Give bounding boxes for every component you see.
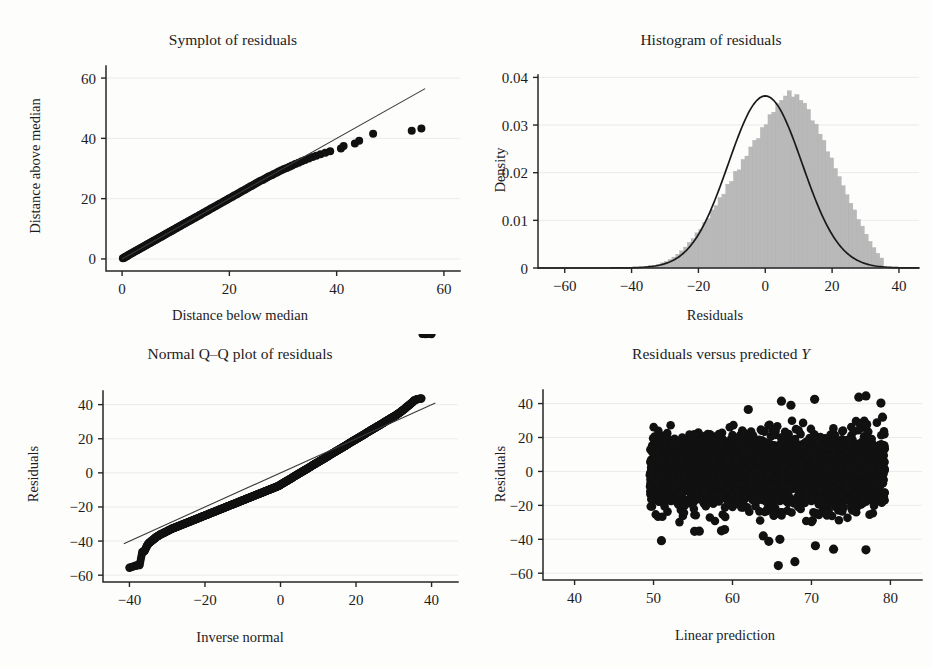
rvf-x-axis-title: Linear prediction: [675, 627, 776, 643]
svg-text:0: 0: [762, 278, 770, 294]
symplot-points: [119, 124, 425, 262]
qq-y-axis-title: Residuals: [25, 445, 41, 502]
panel-residuals-vs-fitted: 4050607080−60−40−2002040 Residuals versu…: [467, 334, 933, 668]
svg-text:−20: −20: [70, 499, 93, 515]
qq-x-axis-title: Inverse normal: [196, 629, 283, 645]
svg-text:−60: −60: [553, 278, 576, 294]
histogram-y-axis-title: Density: [492, 147, 508, 193]
residuals-vs-fitted-chart: 4050607080−60−40−2002040 Residuals versu…: [467, 334, 933, 668]
histogram-x-axis-title: Residuals: [687, 307, 744, 323]
svg-text:−20: −20: [510, 498, 533, 514]
svg-text:0.03: 0.03: [502, 118, 528, 134]
svg-text:20: 20: [518, 430, 533, 446]
svg-text:40: 40: [567, 590, 582, 606]
symplot-y-axis-title: Distance above median: [27, 98, 43, 234]
svg-text:−20: −20: [193, 592, 216, 608]
svg-text:0: 0: [118, 281, 126, 297]
svg-text:0.04: 0.04: [502, 70, 529, 86]
svg-text:−40: −40: [510, 532, 533, 548]
svg-text:40: 40: [81, 131, 96, 147]
histogram-title: Histogram of residuals: [640, 31, 781, 48]
svg-text:−60: −60: [510, 566, 533, 582]
rvf-y-axis-title: Residuals: [492, 445, 508, 502]
svg-text:40: 40: [329, 281, 344, 297]
svg-text:0.01: 0.01: [502, 213, 528, 229]
qq-chart: −40−2002040−60−40−2002040 Normal Q–Q plo…: [0, 334, 466, 668]
qq-gridlines: [103, 405, 458, 576]
histogram-chart: −60−40−200204000.010.020.030.04 Histogra…: [467, 0, 933, 334]
svg-text:0: 0: [86, 465, 94, 481]
svg-text:−40: −40: [70, 534, 93, 550]
panel-symplot: 02040600204060 Symplot of residuals Dist…: [0, 0, 466, 334]
svg-text:50: 50: [646, 590, 661, 606]
svg-text:40: 40: [78, 397, 93, 413]
svg-text:40: 40: [518, 396, 533, 412]
panel-histogram: −60−40−200204000.010.020.030.04 Histogra…: [467, 0, 933, 334]
svg-text:20: 20: [222, 281, 237, 297]
panel-qq: −40−2002040−60−40−2002040 Normal Q–Q plo…: [0, 334, 466, 668]
svg-text:20: 20: [81, 191, 96, 207]
svg-text:0: 0: [521, 261, 529, 277]
svg-text:−40: −40: [118, 592, 141, 608]
symplot-chart: 02040600204060 Symplot of residuals Dist…: [0, 0, 466, 334]
svg-text:60: 60: [436, 281, 451, 297]
rvf-title: Residuals versus predicted Y: [632, 345, 811, 362]
symplot-title: Symplot of residuals: [169, 31, 297, 48]
qq-tick-labels: −40−2002040−60−40−2002040: [70, 397, 440, 608]
svg-text:−60: −60: [70, 568, 93, 584]
svg-text:0: 0: [277, 592, 285, 608]
svg-text:−40: −40: [620, 278, 643, 294]
svg-text:0: 0: [89, 251, 97, 267]
svg-text:20: 20: [825, 278, 840, 294]
residual-diagnostics-figure: 02040600204060 Symplot of residuals Dist…: [0, 0, 933, 668]
svg-text:−20: −20: [687, 278, 710, 294]
svg-text:20: 20: [349, 592, 364, 608]
svg-text:40: 40: [424, 592, 439, 608]
svg-text:20: 20: [78, 431, 93, 447]
svg-text:60: 60: [81, 71, 96, 87]
svg-text:60: 60: [725, 590, 740, 606]
qq-points: [125, 334, 436, 572]
histogram-bars: [645, 91, 884, 268]
svg-text:80: 80: [883, 590, 898, 606]
qq-title: Normal Q–Q plot of residuals: [147, 345, 332, 362]
rvf-points: [645, 391, 889, 570]
svg-text:70: 70: [804, 590, 819, 606]
svg-text:0: 0: [526, 464, 534, 480]
svg-text:40: 40: [891, 278, 906, 294]
symplot-x-axis-title: Distance below median: [172, 307, 309, 323]
symplot-reference-line: [122, 89, 425, 259]
